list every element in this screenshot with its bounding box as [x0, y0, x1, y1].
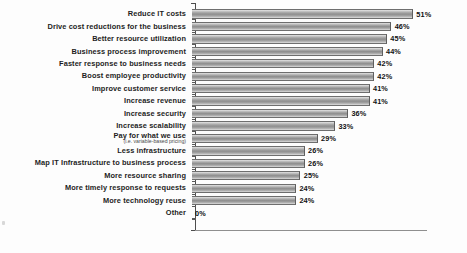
axis-tick: [192, 32, 197, 33]
bar: [192, 9, 413, 18]
chart-row: Increase revenue41%: [0, 95, 467, 107]
axis-tick: [192, 19, 197, 20]
chart-row: More timely response to requests24%: [0, 182, 467, 194]
scan-artifact: [2, 221, 5, 225]
chart-row: Pay for what we use(i.e. variable-based …: [0, 132, 467, 144]
value-label: 26%: [308, 159, 323, 168]
bar-track: 41%: [191, 95, 467, 107]
bar: [192, 22, 391, 31]
value-label: 36%: [351, 109, 366, 118]
value-label: 45%: [390, 34, 405, 43]
bar-track: 51%: [191, 8, 467, 20]
bar: [192, 84, 370, 93]
bar-track: 0%: [191, 207, 467, 219]
value-label: 42%: [377, 72, 392, 81]
bar-track: 42%: [191, 70, 467, 82]
value-label: 41%: [373, 97, 388, 106]
bar: [192, 184, 296, 193]
plot-area: Reduce IT costs51%Drive cost reductions …: [0, 8, 467, 219]
axis-tick: [192, 169, 197, 170]
axis-tick: [192, 106, 197, 107]
value-label: 26%: [308, 146, 323, 155]
axis-baseline: [195, 230, 427, 231]
value-label: 24%: [299, 184, 314, 193]
chart-row: Reduce IT costs51%: [0, 8, 467, 20]
bar: [192, 121, 335, 130]
bar: [192, 134, 318, 143]
value-label: 46%: [395, 22, 410, 31]
bar-track: 41%: [191, 83, 467, 95]
chart-row: Increase security36%: [0, 108, 467, 120]
value-label: 0%: [195, 209, 206, 218]
chart-row: More resource sharing25%: [0, 170, 467, 182]
bar-track: 45%: [191, 33, 467, 45]
axis-tick: [192, 206, 197, 207]
value-label: 44%: [386, 47, 401, 56]
chart-row: Faster response to business needs42%: [0, 58, 467, 70]
bar-track: 25%: [191, 170, 467, 182]
category-label: Faster response to business needs: [0, 60, 191, 68]
axis-tick: [192, 69, 197, 70]
axis-tick: [192, 119, 197, 120]
chart-row: Other0%: [0, 207, 467, 219]
category-label: Boost employee productivity: [0, 72, 191, 80]
bar: [192, 47, 383, 56]
value-label: 29%: [321, 134, 336, 143]
bar-chart: Reduce IT costs51%Drive cost reductions …: [0, 0, 467, 253]
category-label: Improve customer service: [0, 85, 191, 93]
chart-row: Boost employee productivity42%: [0, 70, 467, 82]
category-label: More timely response to requests: [0, 184, 191, 192]
value-label: 24%: [299, 196, 314, 205]
axis-tick: [192, 94, 197, 95]
chart-row: Less infrastructure26%: [0, 145, 467, 157]
category-label: Business process improvement: [0, 48, 191, 56]
chart-row: Drive cost reductions for the business46…: [0, 20, 467, 32]
axis-tick: [192, 57, 197, 58]
axis-tick: [192, 218, 197, 219]
axis-tick: [192, 82, 197, 83]
category-label: Less infrastructure: [0, 147, 191, 155]
category-label: Pay for what we use(i.e. variable-based …: [0, 132, 191, 144]
chart-row: Business process improvement44%: [0, 45, 467, 57]
category-label: Increase revenue: [0, 97, 191, 105]
bar-track: 29%: [191, 132, 467, 144]
bar-track: 42%: [191, 58, 467, 70]
bar-track: 24%: [191, 195, 467, 207]
chart-row: Map IT Infrastructure to business proces…: [0, 157, 467, 169]
value-label: 51%: [416, 10, 431, 19]
bar-track: 33%: [191, 120, 467, 132]
bar: [192, 146, 305, 155]
axis-tick: [192, 44, 197, 45]
bar-track: 24%: [191, 182, 467, 194]
category-label: Increase security: [0, 110, 191, 118]
axis-tick: [192, 156, 197, 157]
chart-row: Increase scalability33%: [0, 120, 467, 132]
value-label: 41%: [373, 84, 388, 93]
axis-tick: [192, 181, 197, 182]
bar: [192, 72, 374, 81]
value-label: 42%: [377, 59, 392, 68]
bar-track: 36%: [191, 108, 467, 120]
chart-row: More technology reuse24%: [0, 195, 467, 207]
bar-track: 44%: [191, 45, 467, 57]
bar: [192, 34, 387, 43]
chart-row: Better resource utilization45%: [0, 33, 467, 45]
bar: [192, 59, 374, 68]
category-label: Better resource utilization: [0, 35, 191, 43]
bar: [192, 109, 348, 118]
bar-track: 26%: [191, 157, 467, 169]
bar: [192, 159, 305, 168]
bar: [192, 96, 370, 105]
category-label: Increase scalability: [0, 122, 191, 130]
category-label: Reduce IT costs: [0, 10, 191, 18]
chart-row: Improve customer service41%: [0, 83, 467, 95]
category-label: Drive cost reductions for the business: [0, 23, 191, 31]
value-label: 33%: [338, 122, 353, 131]
value-label: 25%: [304, 171, 319, 180]
bar: [192, 196, 296, 205]
axis-tick: [192, 144, 197, 145]
axis-tick: [192, 194, 197, 195]
category-label: Map IT Infrastructure to business proces…: [0, 159, 191, 167]
bar-track: 46%: [191, 20, 467, 32]
category-label: More technology reuse: [0, 197, 191, 205]
